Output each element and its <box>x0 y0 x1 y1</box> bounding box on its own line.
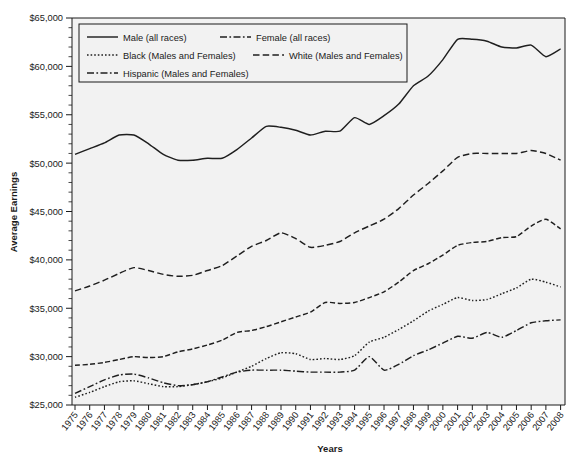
legend-label: Black (Males and Females) <box>123 51 236 61</box>
legend-label: White (Males and Females) <box>289 51 403 61</box>
y-tick-label: $30,000 <box>29 352 63 362</box>
legend-label: Hispanic (Males and Females) <box>123 69 249 79</box>
y-axis-label: Average Earnings <box>8 172 19 252</box>
y-tick-label: $50,000 <box>29 159 63 169</box>
y-tick-label: $40,000 <box>29 255 63 265</box>
y-tick-label: $35,000 <box>29 304 63 314</box>
earnings-line-chart: $25,000$30,000$35,000$40,000$45,000$50,0… <box>0 0 584 459</box>
y-tick-label: $55,000 <box>29 110 63 120</box>
chart-legend: Male (all races)Female (all races)Black … <box>79 24 407 82</box>
x-axis-label: Years <box>317 443 342 454</box>
legend-label: Female (all races) <box>256 33 330 43</box>
legend-label: Male (all races) <box>123 33 187 43</box>
y-tick-label: $65,000 <box>29 13 63 23</box>
y-tick-label: $25,000 <box>29 400 63 410</box>
y-tick-label: $45,000 <box>29 207 63 217</box>
y-tick-label: $60,000 <box>29 62 63 72</box>
